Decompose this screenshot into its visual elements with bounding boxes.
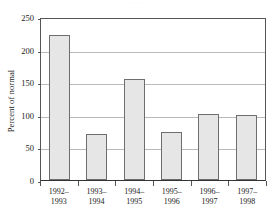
- y-tick-label: 250: [21, 14, 34, 23]
- plot-area: [40, 18, 266, 181]
- bar-slot: [228, 19, 265, 180]
- x-tick-label-line: 1996–: [191, 187, 229, 197]
- x-tick-label-line: 1997: [191, 197, 229, 207]
- y-tick-label: 0: [30, 177, 34, 186]
- x-tick-label-line: 1997–: [228, 187, 266, 197]
- x-tick-mark: [153, 181, 154, 186]
- x-tick-label-line: 1992–: [40, 187, 78, 197]
- x-tick-label: 1992–1993: [40, 187, 78, 207]
- bar-slot: [190, 19, 227, 180]
- clipped-caption-text: · · ·: [0, 0, 272, 7]
- bar[interactable]: [161, 132, 182, 180]
- x-tick-label: 1997–1998: [228, 187, 266, 207]
- x-tick-label-line: 1995: [115, 197, 153, 207]
- x-tick-label-line: 1993–: [78, 187, 116, 197]
- x-tick-label-line: 1996: [153, 197, 191, 207]
- x-axis-tick-marks: [40, 181, 266, 186]
- x-tick-label: 1993–1994: [78, 187, 116, 207]
- x-tick-label-line: 1995–: [153, 187, 191, 197]
- y-tick-label: 100: [21, 112, 34, 121]
- bar-slot: [116, 19, 153, 180]
- bar-chart-figure: · · · Percent of normal 050100150200250 …: [0, 0, 272, 220]
- y-tick-label: 150: [21, 79, 34, 88]
- bar[interactable]: [86, 134, 107, 180]
- bar-series: [41, 19, 265, 180]
- x-tick-mark: [40, 181, 41, 186]
- x-tick-mark: [228, 181, 229, 186]
- bar[interactable]: [236, 115, 257, 180]
- x-tick-mark: [191, 181, 192, 186]
- x-tick-mark: [115, 181, 116, 186]
- y-tick-label: 200: [21, 46, 34, 55]
- x-tick-label-line: 1998: [228, 197, 266, 207]
- y-tick-label: 50: [26, 144, 35, 153]
- bar-slot: [78, 19, 115, 180]
- x-tick-label: 1995–1996: [153, 187, 191, 207]
- x-tick-label: 1994–1995: [115, 187, 153, 207]
- bar[interactable]: [198, 114, 219, 181]
- x-tick-label-line: 1993: [40, 197, 78, 207]
- bar-slot: [153, 19, 190, 180]
- x-axis-tick-labels: 1992–19931993–19941994–19951995–19961996…: [40, 187, 266, 207]
- x-tick-mark: [78, 181, 79, 186]
- bar-slot: [41, 19, 78, 180]
- x-tick-label-line: 1994: [78, 197, 116, 207]
- x-tick-label-line: 1994–: [115, 187, 153, 197]
- y-axis-tick-labels: 050100150200250: [12, 18, 34, 181]
- x-tick-mark: [266, 181, 267, 186]
- x-tick-label: 1996–1997: [191, 187, 229, 207]
- bar[interactable]: [49, 35, 70, 180]
- bar[interactable]: [124, 79, 145, 180]
